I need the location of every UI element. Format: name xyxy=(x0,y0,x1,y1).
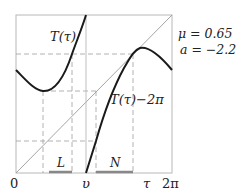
label-N: N xyxy=(109,156,121,170)
curve-T xyxy=(16,15,86,91)
label-2pi: 2π xyxy=(162,176,179,191)
label-a: a = −2.2 xyxy=(180,42,236,57)
label-v: υ xyxy=(82,176,90,191)
phase-diagram: T(τ) T(τ)−2π μ = 0.65 a = −2.2 L N 0 υ τ… xyxy=(0,0,236,196)
label-T-minus-2pi: T(τ)−2π xyxy=(110,92,164,107)
label-origin: 0 xyxy=(10,176,18,191)
label-T: T(τ) xyxy=(50,29,76,44)
curve-T-minus-2pi xyxy=(86,48,172,173)
label-mu: μ = 0.65 xyxy=(178,26,232,41)
label-L: L xyxy=(56,156,65,170)
label-tau: τ xyxy=(143,176,151,191)
